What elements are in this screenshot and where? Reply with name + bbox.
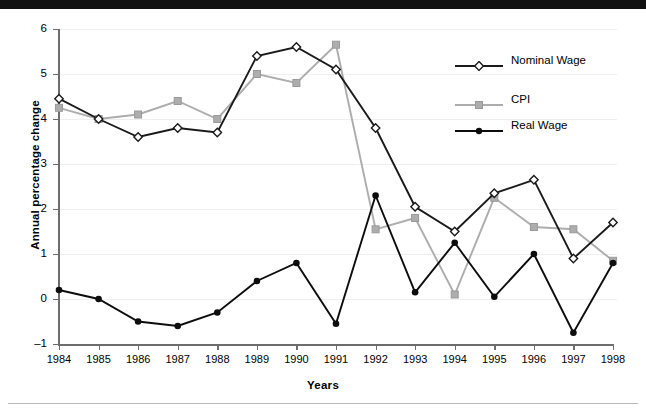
data-point bbox=[56, 104, 63, 111]
data-point bbox=[412, 215, 419, 222]
data-point bbox=[333, 41, 340, 48]
data-point bbox=[372, 226, 379, 233]
data-point bbox=[293, 80, 300, 87]
data-point bbox=[292, 43, 300, 51]
data-point bbox=[610, 260, 617, 267]
data-point bbox=[570, 226, 577, 233]
series-cpi bbox=[56, 41, 617, 298]
data-point bbox=[412, 289, 419, 296]
data-point bbox=[530, 224, 537, 231]
legend-swatch-circle-icon bbox=[455, 126, 503, 136]
data-point bbox=[56, 287, 63, 294]
data-point bbox=[135, 318, 142, 325]
data-point bbox=[372, 192, 379, 199]
series-line bbox=[59, 196, 613, 333]
data-point bbox=[95, 296, 102, 303]
data-point bbox=[134, 133, 142, 141]
data-point bbox=[451, 291, 458, 298]
data-point bbox=[213, 128, 221, 136]
data-point bbox=[253, 71, 260, 78]
bottom-divider-rule bbox=[8, 403, 638, 404]
data-point bbox=[135, 111, 142, 118]
data-point bbox=[293, 260, 300, 267]
legend-swatch-diamond-icon bbox=[455, 61, 503, 71]
legend-label-cpi: CPI bbox=[511, 93, 621, 107]
data-point bbox=[530, 176, 538, 184]
line-chart-figure: Annual percentage change Years 6543210–1… bbox=[0, 9, 646, 403]
data-point bbox=[253, 52, 261, 60]
data-point bbox=[254, 278, 261, 285]
legend-label-nominal-wage: Nominal Wage bbox=[511, 54, 621, 68]
data-point bbox=[531, 251, 538, 258]
data-point bbox=[333, 321, 340, 328]
data-point bbox=[174, 124, 182, 132]
data-point bbox=[214, 309, 221, 316]
plot-area bbox=[0, 9, 646, 403]
data-point bbox=[491, 294, 498, 301]
data-point bbox=[174, 98, 181, 105]
data-point bbox=[451, 240, 458, 247]
legend-label-real-wage: Real Wage bbox=[511, 119, 621, 133]
top-divider-bar bbox=[0, 0, 646, 9]
legend-swatch-square-icon bbox=[455, 100, 503, 110]
data-point bbox=[174, 323, 181, 330]
data-point bbox=[55, 95, 63, 103]
data-point bbox=[570, 330, 577, 337]
series-real-wage bbox=[56, 192, 617, 336]
data-point bbox=[214, 116, 221, 123]
